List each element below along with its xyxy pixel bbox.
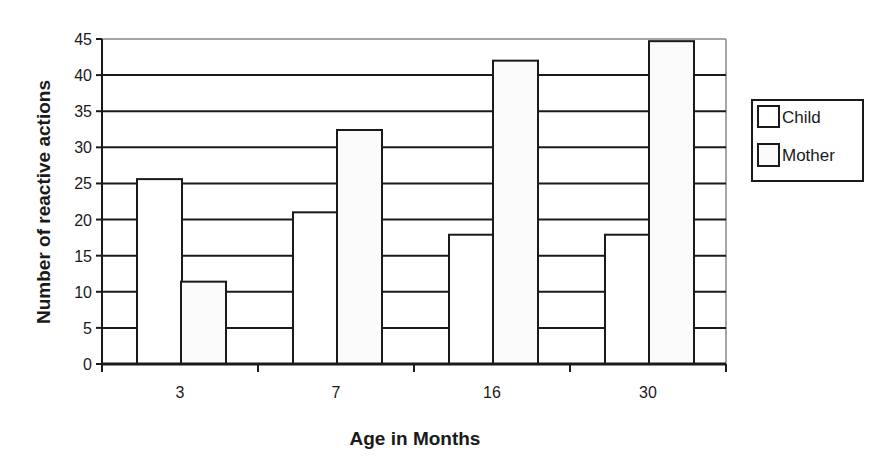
x-tick-label: 30 bbox=[639, 384, 657, 401]
y-tick-label: 20 bbox=[74, 212, 92, 229]
legend: Child Mother bbox=[752, 100, 863, 181]
legend-item-mother: Mother bbox=[758, 144, 835, 166]
bar-chart: 051015202530354045 371630 Number of reac… bbox=[0, 0, 890, 467]
legend-label-child: Child bbox=[782, 108, 821, 127]
bar-mother-3 bbox=[181, 282, 226, 364]
bar-child-16 bbox=[449, 235, 494, 364]
y-tick-label: 10 bbox=[74, 284, 92, 301]
y-axis-title: Number of reactive actions bbox=[33, 80, 54, 324]
y-tick-label: 25 bbox=[74, 175, 92, 192]
y-tick-label: 40 bbox=[74, 67, 92, 84]
y-tick-label: 5 bbox=[83, 320, 92, 337]
bars bbox=[137, 41, 694, 364]
y-tick-label: 0 bbox=[83, 356, 92, 373]
x-tick-label: 3 bbox=[176, 384, 185, 401]
y-axis: 051015202530354045 bbox=[74, 31, 102, 373]
bar-mother-30 bbox=[649, 41, 694, 364]
y-tick-label: 45 bbox=[74, 31, 92, 48]
bar-child-3 bbox=[137, 179, 182, 364]
bar-mother-16 bbox=[493, 61, 538, 364]
bar-child-7 bbox=[293, 212, 338, 364]
legend-label-mother: Mother bbox=[782, 146, 835, 165]
y-tick-label: 30 bbox=[74, 139, 92, 156]
bar-mother-7 bbox=[337, 130, 382, 364]
legend-swatch-mother bbox=[758, 144, 779, 166]
bar-child-30 bbox=[605, 235, 650, 364]
legend-swatch-child bbox=[758, 106, 779, 127]
x-tick-label: 16 bbox=[483, 384, 501, 401]
x-axis: 371630 bbox=[102, 364, 726, 401]
y-tick-label: 15 bbox=[74, 248, 92, 265]
y-tick-label: 35 bbox=[74, 103, 92, 120]
legend-item-child: Child bbox=[758, 106, 821, 127]
x-tick-label: 7 bbox=[332, 384, 341, 401]
x-axis-title: Age in Months bbox=[350, 428, 481, 449]
